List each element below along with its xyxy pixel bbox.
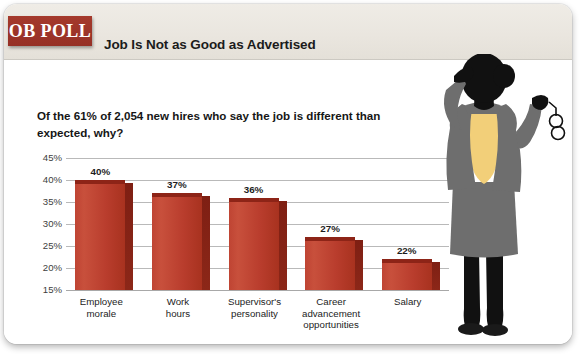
x-axis-category-line: hours bbox=[136, 308, 220, 320]
x-axis-category-line: personality bbox=[213, 308, 297, 320]
x-axis-category-label: Careeradvancementopportunities bbox=[289, 296, 373, 331]
x-axis-category-line: opportunities bbox=[289, 319, 373, 331]
x-axis-category-label: Workhours bbox=[136, 296, 220, 319]
gridline-45 bbox=[66, 158, 449, 159]
bar-4 bbox=[305, 237, 355, 290]
page-background: 15%20%25%30%35%40%45%40%Employeemorale37… bbox=[0, 0, 580, 354]
bar-side-face bbox=[202, 196, 210, 290]
poll-question-line1: Of the 61% of 2,054 new hires who say th… bbox=[37, 109, 380, 122]
bar-2 bbox=[152, 193, 202, 290]
bar-top-face bbox=[75, 180, 125, 184]
bar-top-face bbox=[229, 198, 279, 202]
y-axis-tick-label: 45% bbox=[30, 153, 62, 163]
bar-front-face bbox=[75, 180, 125, 290]
x-axis-category-label: Supervisor'spersonality bbox=[213, 296, 297, 319]
x-axis-category-line: Employee bbox=[59, 296, 143, 308]
y-axis-tick-label: 40% bbox=[30, 175, 62, 185]
bar-top-face bbox=[305, 237, 355, 241]
bar-front-face bbox=[152, 193, 202, 290]
bar-side-face bbox=[355, 240, 363, 290]
y-axis-tick-label: 30% bbox=[30, 219, 62, 229]
page-title: Job Is Not as Good as Advertised bbox=[104, 37, 316, 52]
x-axis-category-label: Employeemorale bbox=[59, 296, 143, 319]
x-axis-category-line: Work bbox=[136, 296, 220, 308]
bar-value-label: 40% bbox=[61, 167, 139, 177]
bar-value-label: 27% bbox=[291, 224, 369, 234]
bar-top-face bbox=[152, 193, 202, 197]
y-axis-tick-label: 35% bbox=[30, 197, 62, 207]
gridline-15 bbox=[66, 290, 449, 291]
bar-side-face bbox=[125, 183, 133, 290]
poll-question: Of the 61% of 2,054 new hires who say th… bbox=[37, 108, 382, 141]
poll-card: 15%20%25%30%35%40%45%40%Employeemorale37… bbox=[4, 4, 572, 344]
ob-poll-badge-label: OB POLL bbox=[9, 22, 91, 40]
bar-value-label: 37% bbox=[138, 180, 216, 190]
businesswoman-silhouette-icon bbox=[406, 54, 572, 344]
y-axis-tick-label: 20% bbox=[30, 263, 62, 273]
x-axis-category-line: morale bbox=[59, 308, 143, 320]
x-axis-category-line: Career bbox=[289, 296, 373, 308]
y-axis-tick-label: 25% bbox=[30, 241, 62, 251]
bar-1 bbox=[75, 180, 125, 290]
bar-side-face bbox=[279, 201, 287, 290]
bar-3 bbox=[229, 198, 279, 290]
y-axis-tick-label: 15% bbox=[30, 285, 62, 295]
x-axis-category-line: advancement bbox=[289, 308, 373, 320]
bar-value-label: 36% bbox=[215, 185, 293, 195]
x-axis-category-line: Supervisor's bbox=[213, 296, 297, 308]
ob-poll-badge: OB POLL bbox=[8, 16, 92, 46]
poll-question-line2: expected, why? bbox=[37, 126, 123, 139]
bar-front-face bbox=[229, 198, 279, 290]
bar-front-face bbox=[305, 237, 355, 290]
